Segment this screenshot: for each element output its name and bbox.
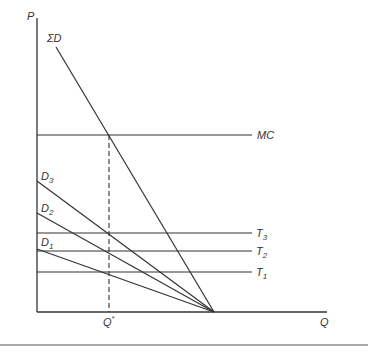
d2-label: D2 [41,202,54,217]
mc-label: MC [257,129,274,141]
d2-curve [37,213,214,312]
public-good-diagram: P Q ΣD MC D3 D2 D1 T3 T2 T1 Q* [0,0,368,358]
d1-curve [37,249,214,312]
d1-label: D1 [41,236,53,251]
x-axis-label: Q [320,316,329,328]
sum-demand-label: ΣD [46,32,62,44]
q-star-label: Q* [103,315,115,328]
t3-label: T3 [256,227,268,242]
d3-label: D3 [41,170,54,185]
t1-label: T1 [256,266,267,281]
t2-label: T2 [256,245,268,260]
d3-curve [37,181,214,312]
y-axis-label: P [27,10,35,22]
